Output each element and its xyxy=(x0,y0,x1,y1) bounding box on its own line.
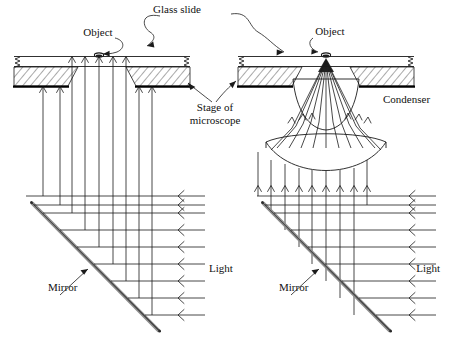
mirror-left xyxy=(30,201,161,333)
glass-slide-pointer-right xyxy=(231,14,284,52)
stage-left-slab xyxy=(13,67,78,87)
stage-left-slab-right-panel xyxy=(237,67,302,87)
break-symbol-right-panel-right xyxy=(408,57,413,67)
stage-right-slab xyxy=(126,67,191,87)
break-symbol-left xyxy=(15,57,20,67)
glass-slide-pointer-right-head xyxy=(277,50,284,56)
break-symbol-right-panel-left xyxy=(239,57,244,67)
label-mirror-right: Mirror xyxy=(279,281,309,293)
optics-ray-diagram: Glass slide Object Object Stage of micro… xyxy=(0,0,459,343)
incoming-light-rays-left xyxy=(26,191,205,321)
label-light-left: Light xyxy=(209,262,233,274)
object-pointer-right-head xyxy=(311,49,318,55)
label-stage-line1: Stage of xyxy=(197,101,234,113)
figure-canvas: Glass slide Object Object Stage of micro… xyxy=(0,0,459,343)
label-object-right: Object xyxy=(315,25,344,37)
label-light-right: Light xyxy=(416,262,440,274)
stage-pointer-right-head xyxy=(229,81,236,88)
label-condenser: Condenser xyxy=(383,93,430,105)
mirror-right xyxy=(261,201,392,333)
glass-slide-pointer-left xyxy=(144,15,160,46)
object-pointer-left xyxy=(103,38,123,54)
vertical-rays-right xyxy=(255,152,371,315)
label-stage-line2: microscope xyxy=(190,114,241,126)
object-marker-right xyxy=(321,53,330,57)
label-glass-slide: Glass slide xyxy=(153,3,201,15)
left-panel xyxy=(13,53,205,333)
break-symbol-right xyxy=(184,57,189,67)
object-pointer-right xyxy=(310,38,318,52)
label-object-left: Object xyxy=(83,26,112,38)
stage-right-slab-right-panel xyxy=(350,67,415,87)
incoming-light-rays-right xyxy=(257,191,436,321)
label-mirror-left: Mirror xyxy=(48,281,78,293)
mirror-pointer-left-head xyxy=(81,269,89,275)
mirror-pointer-right-head xyxy=(312,269,320,275)
